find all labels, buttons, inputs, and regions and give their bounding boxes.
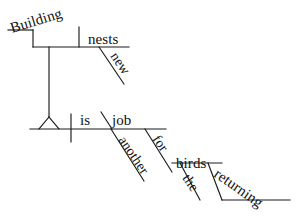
word-nests: nests [88,31,119,47]
word-building: Building [8,5,64,36]
pred-nom-slant-line [101,112,112,129]
word-for: for [150,132,172,154]
gerund-stand-left-line [39,117,49,129]
word-new: new [108,49,134,78]
word-is: is [80,112,90,128]
diagram-line-layer [8,27,290,200]
word-returning: returning [211,165,266,210]
word-another: another [116,133,152,177]
sentence-diagram-svg: Buildingnestsnewisjobanotherforbirdsther… [0,0,299,221]
sentence-diagram-canvas: Buildingnestsnewisjobanotherforbirdsther… [0,0,299,221]
word-birds: birds [176,155,207,171]
diagram-word-layer: Buildingnestsnewisjobanotherforbirdsther… [8,5,266,211]
gerund-stand-right-line [49,117,59,129]
word-the: the [180,171,202,194]
word-job: job [111,112,131,128]
